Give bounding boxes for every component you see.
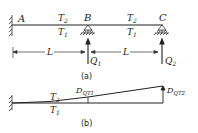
roller-support-c-icon [154,25,169,35]
load-q2-label: Q2 [165,56,176,67]
figure-a: A B C T2 T1 T2 T1 L L [9,12,176,81]
length2-label: L [122,47,129,57]
dimension-lines [13,47,158,58]
deflection2-label: DQT2 [166,86,186,96]
deflection2-arrow-icon [161,86,165,103]
caption-a: (a) [81,72,92,81]
length1-label: L [46,47,53,57]
span1-bottom-temp: T1 [58,27,68,38]
fixed-support-icon [9,15,12,36]
span1-top-temp: T2 [58,13,68,24]
load-q1-label: Q1 [90,56,101,67]
point-a-label: A [17,13,25,24]
load-arrow-q2-icon [160,39,164,64]
roller-support-b-icon [80,25,95,35]
b-bottom-temp: T1 [50,105,60,116]
point-b-label: B [83,12,91,23]
caption-b: (b) [81,119,92,128]
figure-b: T2 T1 DQT1 DQT2 (b) [9,86,186,128]
deflection1-label: DQT1 [75,86,94,96]
point-c-label: C [159,12,167,23]
b-top-temp: T2 [50,92,60,103]
span2-bottom-temp: T1 [127,27,137,38]
beam-diagram: A B C T2 T1 T2 T1 L L [0,0,198,133]
fixed-support-b-icon [9,95,12,111]
span2-top-temp: T2 [127,13,137,24]
